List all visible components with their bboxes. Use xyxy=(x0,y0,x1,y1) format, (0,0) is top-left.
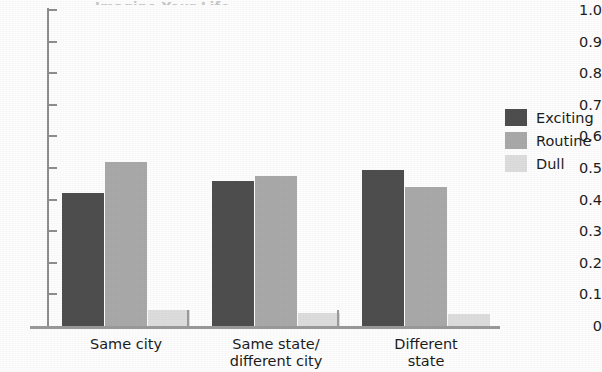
y-axis-tick-label: 0 xyxy=(562,319,602,333)
x-axis-tick-mark xyxy=(187,310,189,326)
bar-routine xyxy=(105,162,147,326)
y-axis-tick-label: 0.2 xyxy=(562,256,602,270)
legend-label: Routine xyxy=(536,133,591,149)
bar-routine xyxy=(255,176,297,326)
chart-legend: ExcitingRoutineDull xyxy=(505,106,594,175)
legend-item: Dull xyxy=(505,152,594,175)
bar-exciting xyxy=(362,170,404,326)
plot-area xyxy=(47,10,490,326)
x-axis-category-label: Same city xyxy=(51,336,201,353)
cropped-title-remnant: Imagine Your Life xyxy=(95,0,325,5)
bar-dull xyxy=(148,310,190,326)
y-axis-tick-label: 0.1 xyxy=(562,287,602,301)
bar-exciting xyxy=(62,193,104,326)
bar-routine xyxy=(405,187,447,326)
chart-screenshot: Imagine Your Life 1.00.90.80.70.60.50.40… xyxy=(0,0,602,372)
x-axis-tick-mark xyxy=(337,310,339,326)
bar-group xyxy=(212,10,340,326)
legend-item: Routine xyxy=(505,129,594,152)
x-axis-line xyxy=(30,326,500,329)
bar-exciting xyxy=(212,181,254,326)
x-axis-category-label: Same state/ different city xyxy=(201,336,351,370)
y-axis-tick-label: 0.4 xyxy=(562,193,602,207)
legend-item: Exciting xyxy=(505,106,594,129)
legend-swatch-icon xyxy=(505,155,527,172)
legend-label: Exciting xyxy=(536,110,594,126)
bar-group xyxy=(362,10,490,326)
y-axis-tick-label: 0.9 xyxy=(562,35,602,49)
legend-label: Dull xyxy=(536,156,564,172)
y-axis-tick-label: 0.8 xyxy=(562,66,602,80)
bar-dull xyxy=(448,314,490,326)
legend-swatch-icon xyxy=(505,132,527,149)
y-axis-tick-label: 0.3 xyxy=(562,224,602,238)
bar-group xyxy=(62,10,190,326)
y-axis-tick-label: 1.0 xyxy=(562,3,602,17)
bar-dull xyxy=(298,313,340,326)
x-axis-category-label: Different state xyxy=(351,336,501,370)
legend-swatch-icon xyxy=(505,109,527,126)
